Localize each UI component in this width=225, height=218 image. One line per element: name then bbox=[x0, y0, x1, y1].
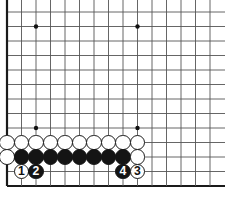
move-number-label: 4 bbox=[115, 164, 131, 180]
move-number-label: 3 bbox=[130, 164, 146, 180]
black-stone[interactable] bbox=[115, 149, 131, 165]
white-stone[interactable] bbox=[86, 135, 102, 151]
black-stone[interactable] bbox=[14, 149, 30, 165]
board-grid bbox=[0, 0, 225, 218]
black-stone[interactable] bbox=[72, 149, 88, 165]
black-stone[interactable] bbox=[43, 149, 59, 165]
star-points bbox=[34, 24, 140, 130]
star-point bbox=[135, 126, 139, 130]
star-point bbox=[34, 126, 38, 130]
go-board-diagram: 1243 bbox=[0, 0, 225, 218]
white-stone[interactable] bbox=[28, 135, 44, 151]
black-stone[interactable] bbox=[57, 149, 73, 165]
black-stone[interactable] bbox=[86, 149, 102, 165]
white-stone[interactable] bbox=[0, 135, 15, 151]
white-stone[interactable] bbox=[115, 135, 131, 151]
move-number-label: 1 bbox=[14, 164, 30, 180]
move-number-label: 2 bbox=[28, 164, 44, 180]
white-stone[interactable] bbox=[0, 149, 15, 165]
white-stone[interactable] bbox=[130, 149, 146, 165]
black-stone[interactable] bbox=[101, 149, 117, 165]
star-point bbox=[34, 24, 38, 28]
white-stone[interactable] bbox=[57, 135, 73, 151]
star-point bbox=[135, 24, 139, 28]
black-stone[interactable] bbox=[28, 149, 44, 165]
